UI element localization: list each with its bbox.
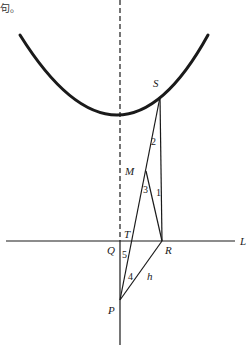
angle-label-4: 4 — [128, 271, 133, 282]
segment-MR — [146, 171, 162, 241]
point-label-S: S — [153, 77, 159, 89]
corner-text: 句。 — [0, 2, 20, 14]
angle-label-1: 1 — [156, 187, 161, 198]
point-label-T: T — [124, 228, 131, 240]
point-label-Q: Q — [107, 244, 115, 256]
line-label-L: L — [239, 235, 246, 247]
point-label-M: M — [124, 165, 135, 177]
angle-label-2: 2 — [151, 136, 156, 147]
point-label-R: R — [164, 244, 172, 256]
segment-SR — [160, 97, 162, 241]
segment-label-h: h — [147, 270, 153, 282]
segment-SP — [120, 97, 160, 300]
angle-label-5: 5 — [122, 249, 127, 260]
point-label-P: P — [107, 304, 115, 316]
parabola-curve — [20, 35, 208, 115]
angle-label-3: 3 — [143, 184, 148, 195]
geometry-diagram: 句。 S M T Q R P L h 1 2 3 4 5 — [0, 0, 251, 352]
